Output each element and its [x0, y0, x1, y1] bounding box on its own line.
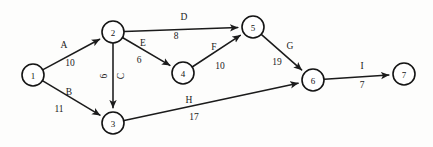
edge-name-G: G: [287, 41, 294, 51]
edge-weight-C: 6: [99, 73, 109, 78]
network-graph-canvas: 1234567 A10B11C6D8E6F10G19H17I7: [0, 0, 433, 147]
node-label-4: 4: [181, 69, 186, 79]
edge-name-I: I: [360, 61, 363, 71]
edge-name-A: A: [61, 40, 68, 50]
edge-weight-D: 8: [174, 31, 179, 41]
edge-name-D: D: [181, 12, 188, 22]
edge-weight-H: 17: [189, 112, 199, 122]
edge-B: [43, 81, 100, 115]
node-label-3: 3: [111, 119, 116, 129]
node-label-7: 7: [402, 70, 407, 80]
nodes-layer: 1234567: [22, 16, 415, 134]
edge-D: [124, 28, 237, 32]
edge-name-E: E: [140, 38, 146, 48]
edge-weight-A: 10: [65, 58, 75, 68]
edge-weight-E: 6: [137, 55, 142, 65]
node-label-1: 1: [31, 71, 36, 81]
edge-name-F: F: [211, 42, 216, 52]
edge-weight-F: 10: [215, 61, 225, 71]
node-label-6: 6: [311, 76, 316, 86]
edge-weight-I: 7: [360, 80, 365, 90]
edge-name-B: B: [66, 87, 72, 97]
edge-name-C: C: [116, 73, 126, 79]
edge-H: [124, 83, 298, 120]
edge-name-H: H: [186, 95, 193, 105]
edge-weight-G: 19: [272, 57, 282, 67]
node-label-2: 2: [111, 28, 116, 38]
node-label-5: 5: [251, 23, 256, 33]
edge-weight-B: 11: [54, 104, 63, 114]
edge-E: [123, 38, 170, 66]
network-diagram: 1234567 A10B11C6D8E6F10G19H17I7: [0, 0, 433, 147]
edge-I: [324, 75, 388, 79]
